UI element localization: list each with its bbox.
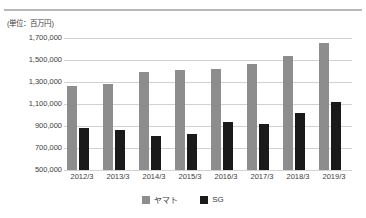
bar-yamato xyxy=(67,86,77,170)
bar-yamato xyxy=(247,64,257,170)
y-axis-tick-label: 1,500,000 xyxy=(4,55,62,64)
y-axis-tick: 1,700,000 xyxy=(0,33,62,34)
x-axis-tick-label: 2018/3 xyxy=(280,172,316,181)
y-axis-tick-label: 1,100,000 xyxy=(4,99,62,108)
y-axis-tick-label: 1,300,000 xyxy=(4,77,62,86)
y-axis-tick: 1,500,000 xyxy=(0,55,62,56)
bar-group xyxy=(280,38,316,170)
bar-yamato xyxy=(319,43,329,170)
chart-plot-area: 1,700,0001,500,0001,300,0001,100,000900,… xyxy=(0,0,366,218)
y-axis-tick: 700,000 xyxy=(0,143,62,144)
bar-sg xyxy=(331,102,341,170)
bar-group xyxy=(244,38,280,170)
bar-sg xyxy=(79,128,89,170)
bar-group xyxy=(136,38,172,170)
bar-yamato xyxy=(283,56,293,170)
bar-sg xyxy=(187,134,197,170)
bar-groups xyxy=(64,38,352,170)
bar-yamato xyxy=(211,69,221,170)
y-axis-tick-label: 900,000 xyxy=(4,121,62,130)
chart-legend: ヤマトSG xyxy=(0,194,366,205)
bar-sg xyxy=(259,124,269,170)
x-axis-tick-label: 2015/3 xyxy=(172,172,208,181)
bar-group xyxy=(316,38,352,170)
x-axis-tick-label: 2017/3 xyxy=(244,172,280,181)
bar-yamato xyxy=(175,70,185,170)
y-axis-tick: 500,000 xyxy=(0,165,62,166)
x-axis-tick-label: 2014/3 xyxy=(136,172,172,181)
bar-yamato xyxy=(103,84,113,170)
x-axis-tick-label: 2016/3 xyxy=(208,172,244,181)
y-axis-tick: 900,000 xyxy=(0,121,62,122)
x-axis-tick-labels: 2012/32013/32014/32015/32016/32017/32018… xyxy=(64,172,352,184)
bar-sg xyxy=(151,136,161,170)
bar-sg xyxy=(295,113,305,170)
y-axis-tick-label: 500,000 xyxy=(4,165,62,174)
bar-group xyxy=(64,38,100,170)
gridline xyxy=(64,170,352,171)
bar-yamato xyxy=(139,72,149,170)
bar-sg xyxy=(115,130,125,170)
y-axis-tick-label: 1,700,000 xyxy=(4,33,62,42)
y-axis-tick: 1,300,000 xyxy=(0,77,62,78)
y-axis-tick: 1,100,000 xyxy=(0,99,62,100)
legend-item[interactable]: ヤマト xyxy=(142,194,178,205)
legend-label: ヤマト xyxy=(154,194,178,205)
legend-label: SG xyxy=(212,195,224,204)
bar-group xyxy=(172,38,208,170)
legend-swatch-icon xyxy=(142,196,150,204)
bar-group xyxy=(208,38,244,170)
legend-swatch-icon xyxy=(200,196,208,204)
bar-sg xyxy=(223,122,233,170)
x-axis-tick-label: 2013/3 xyxy=(100,172,136,181)
x-axis-tick-label: 2012/3 xyxy=(64,172,100,181)
bar-group xyxy=(100,38,136,170)
x-axis-tick-label: 2019/3 xyxy=(316,172,352,181)
y-axis-tick-label: 700,000 xyxy=(4,143,62,152)
legend-item[interactable]: SG xyxy=(200,195,224,204)
